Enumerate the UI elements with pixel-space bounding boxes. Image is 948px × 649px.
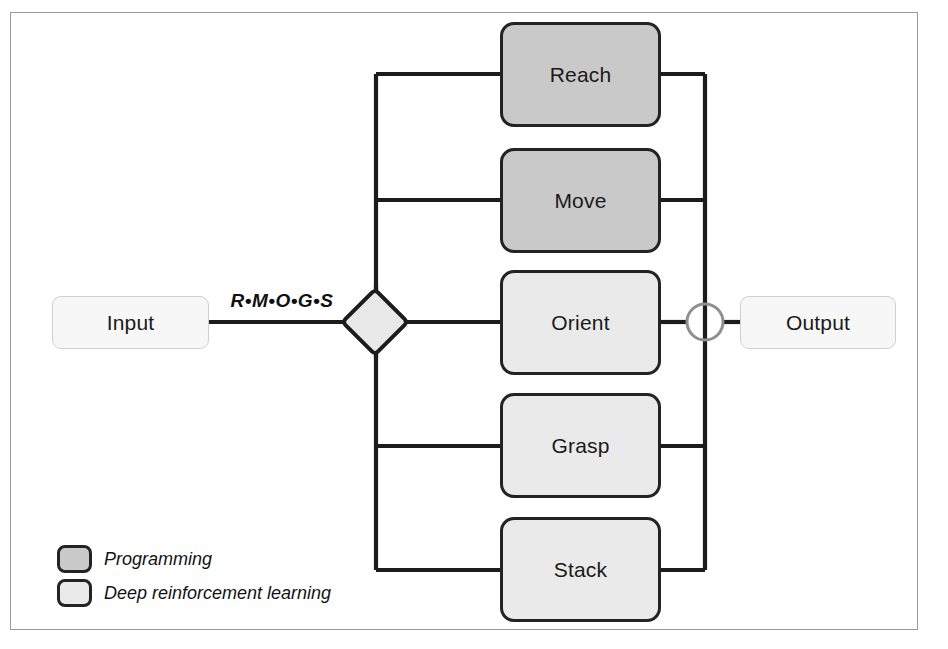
legend-label-deep-reinforcement-learning: Deep reinforcement learning	[104, 583, 331, 604]
output-node-label: Output	[786, 311, 850, 335]
task-node-orient[interactable]: Orient	[500, 270, 661, 375]
legend-item-programming: Programming	[57, 545, 331, 573]
legend-label-programming: Programming	[104, 549, 212, 570]
task-node-move[interactable]: Move	[500, 148, 661, 253]
input-node[interactable]: Input	[52, 296, 209, 349]
legend-swatch-deep-reinforcement-learning	[57, 579, 92, 607]
task-node-label: Grasp	[551, 434, 609, 458]
diagram-canvas: Input R•M•O•G•S Reach Move Orient Grasp …	[0, 0, 948, 649]
task-node-grasp[interactable]: Grasp	[500, 393, 661, 498]
legend: Programming Deep reinforcement learning	[57, 545, 331, 607]
task-node-reach[interactable]: Reach	[500, 22, 661, 127]
edge-label: R•M•O•G•S	[222, 290, 342, 312]
task-node-label: Reach	[550, 63, 612, 87]
task-node-label: Move	[554, 189, 606, 213]
output-node[interactable]: Output	[740, 296, 896, 349]
input-node-label: Input	[107, 311, 155, 335]
task-node-label: Stack	[554, 558, 608, 582]
task-node-label: Orient	[551, 311, 609, 335]
task-node-stack[interactable]: Stack	[500, 517, 661, 622]
legend-swatch-programming	[57, 545, 92, 573]
legend-item-deep-reinforcement-learning: Deep reinforcement learning	[57, 579, 331, 607]
